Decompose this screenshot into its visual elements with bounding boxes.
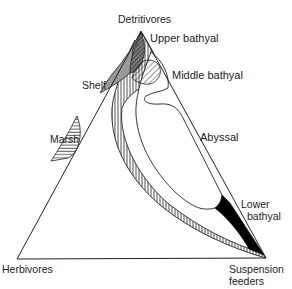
- region-label-upper-bathyal: Upper bathyal: [150, 33, 219, 44]
- region-label-lower-bathyal-line2: bathyal: [247, 211, 281, 222]
- region-label-lower-bathyal-line1: Lower: [241, 199, 270, 210]
- vertex-label-feeders: feeders: [229, 276, 264, 287]
- vertex-label-detritivores: Detritivores: [118, 14, 171, 25]
- vertex-label-suspension: Suspension: [229, 264, 284, 275]
- region-label-abyssal: Abyssal: [200, 132, 239, 143]
- vertex-label-herbivores: Herbivores: [2, 264, 53, 275]
- region-label-marsh: Marsh: [50, 134, 79, 145]
- region-label-middle-bathyal: Middle bathyal: [172, 70, 243, 81]
- region-label-shelf: Shelf: [82, 80, 106, 91]
- ternary-diagram: [0, 0, 292, 289]
